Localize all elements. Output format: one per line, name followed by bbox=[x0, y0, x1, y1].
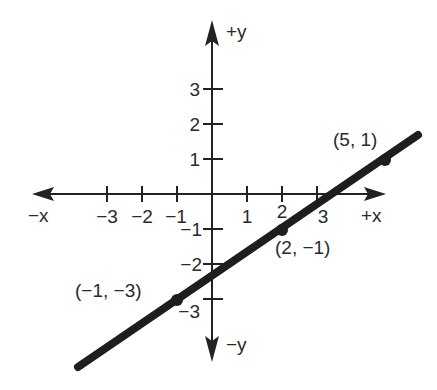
plotted-line bbox=[78, 135, 418, 367]
point-label: (−1, −3) bbox=[75, 280, 142, 301]
x-positive-label: +x bbox=[361, 205, 382, 226]
y-positive-label: +y bbox=[226, 21, 247, 42]
coordinate-plane: +y −y −x +x −3 −2 −1 1 2 3 3 2 1 −1 −2 −… bbox=[0, 0, 437, 390]
point-label: (5, 1) bbox=[333, 129, 377, 150]
y-negative-label: −y bbox=[226, 334, 247, 355]
y-tick-label: −1 bbox=[180, 219, 202, 240]
y-tick-label: 2 bbox=[189, 114, 200, 135]
x-tick-label: 1 bbox=[242, 206, 253, 227]
point-2-neg1 bbox=[276, 224, 288, 236]
y-tick-label: 3 bbox=[189, 79, 200, 100]
x-tick-label: −2 bbox=[131, 206, 153, 227]
point-5-1 bbox=[379, 154, 391, 166]
x-negative-label: −x bbox=[28, 205, 49, 226]
y-tick-label: −3 bbox=[178, 301, 200, 322]
y-tick-label: −2 bbox=[180, 254, 202, 275]
x-tick-label: 2 bbox=[277, 201, 288, 222]
point-neg1-neg3 bbox=[171, 294, 183, 306]
x-tick-label: 3 bbox=[318, 206, 329, 227]
x-tick-label: −3 bbox=[96, 206, 118, 227]
point-label: (2, −1) bbox=[275, 237, 330, 258]
y-tick-label: 1 bbox=[189, 149, 200, 170]
